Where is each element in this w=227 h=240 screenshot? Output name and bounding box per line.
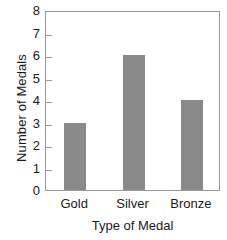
y-tick-label: 4 [14,94,40,108]
y-tick-label: 2 [14,139,40,153]
y-tick-mark [46,80,52,81]
y-tick-mark [46,147,52,148]
y-tick-mark [46,57,52,58]
y-tick-label: 5 [14,72,40,86]
y-tick-mark [46,102,52,103]
x-axis-title: Type of Medal [45,218,220,234]
y-tick-label: 6 [14,49,40,63]
y-tick-label: 7 [14,27,40,41]
y-tick-mark [46,125,52,126]
bar [181,100,203,190]
y-tick-mark [46,170,52,171]
y-tick-label: 8 [14,4,40,18]
x-axis-tick-labels: GoldSilverBronze [45,196,220,214]
y-tick-mark [46,35,52,36]
bar-chart: Number of Medals 012345678 GoldSilverBro… [0,0,227,240]
y-tick-label: 1 [14,162,40,176]
plot-area [45,11,220,191]
y-axis-tick-labels: 012345678 [14,3,40,199]
x-tick-label: Bronze [156,196,226,212]
bar [64,123,86,191]
bar [123,55,145,190]
y-tick-label: 3 [14,117,40,131]
y-tick-label: 0 [14,184,40,198]
